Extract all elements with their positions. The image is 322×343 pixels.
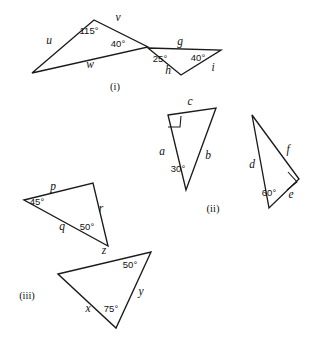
side-label-p: p (49, 180, 56, 193)
angle-label-60: 60° (262, 187, 277, 198)
side-label-d: d (249, 158, 255, 170)
side-label-h: h (165, 64, 171, 76)
side-label-z: z (101, 244, 107, 256)
group-i: uvw115°40°ghi25°40°(i) (32, 11, 221, 93)
triangle-ii-left: cab30° (159, 95, 216, 190)
angle-label-75: 75° (104, 303, 119, 314)
group-iii: pqr45°50°zxy50°75°(iii) (19, 180, 151, 328)
angle-label-30: 30° (171, 163, 186, 174)
triangle-ii-right: fde60° (249, 115, 299, 208)
triangle-i-left: uvw115°40° (32, 11, 148, 73)
side-label-q: q (59, 220, 65, 233)
side-label-a: a (159, 145, 165, 157)
group-caption-ii: (ii) (207, 203, 220, 215)
side-label-w: w (86, 58, 94, 70)
side-label-f: f (286, 143, 291, 156)
side-label-b: b (205, 149, 211, 161)
angle-label-115: 115° (80, 25, 99, 36)
angle-label-50: 50° (80, 221, 95, 232)
triangle-iii-bottom: zxy50°75° (58, 244, 151, 328)
figure-canvas: uvw115°40°ghi25°40°(i)cab30°fde60°(ii)pq… (0, 0, 322, 343)
angle-label-25: 25° (153, 53, 168, 64)
side-label-x: x (84, 302, 91, 314)
side-label-g: g (177, 35, 183, 48)
side-label-e: e (288, 188, 293, 200)
side-label-u: u (46, 34, 52, 46)
triangle-iii-top: pqr45°50° (24, 180, 108, 246)
angle-label-40: 40° (191, 52, 206, 63)
group-ii: cab30°fde60°(ii) (159, 95, 299, 215)
triangle-outline (24, 183, 108, 246)
triangles-figure: uvw115°40°ghi25°40°(i)cab30°fde60°(ii)pq… (0, 0, 322, 343)
side-label-i: i (211, 61, 214, 73)
group-caption-iii: (iii) (19, 290, 35, 302)
group-caption-i: (i) (110, 81, 120, 93)
angle-label-40: 40° (111, 38, 126, 49)
side-label-y: y (137, 285, 144, 298)
triangle-i-right: ghi25°40° (148, 35, 221, 76)
side-label-r: r (99, 202, 104, 214)
angle-label-45: 45° (30, 196, 45, 207)
side-label-c: c (187, 95, 192, 107)
angle-label-50: 50° (123, 259, 138, 270)
side-label-v: v (115, 11, 121, 23)
